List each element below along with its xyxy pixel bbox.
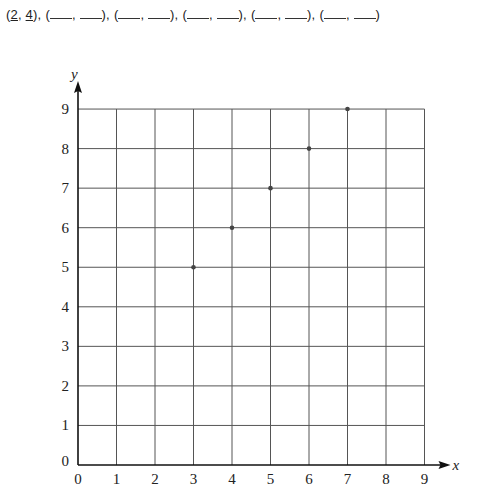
y-tick-label: 4 — [62, 299, 70, 315]
data-point — [307, 146, 312, 151]
x-tick-label: 4 — [228, 471, 236, 487]
y-tick-label: 6 — [62, 220, 70, 236]
x-tick-label: 5 — [267, 471, 275, 487]
y-tick-label: 7 — [62, 180, 70, 196]
y-axis-label: y — [69, 66, 78, 82]
x-tick-label: 3 — [190, 471, 198, 487]
y-tick-label: 3 — [62, 338, 70, 354]
data-point — [230, 225, 235, 230]
x-axis-label: x — [452, 457, 460, 473]
data-point — [268, 186, 273, 191]
y-tick-label: 0 — [62, 453, 70, 469]
data-point — [191, 265, 196, 270]
x-tick-label: 7 — [344, 471, 352, 487]
x-tick-label: 2 — [151, 471, 159, 487]
y-tick-label: 5 — [62, 259, 70, 275]
x-tick-label: 9 — [421, 471, 429, 487]
x-tick-label: 0 — [74, 471, 82, 487]
y-tick-label: 1 — [62, 417, 70, 433]
x-tick-label: 6 — [305, 471, 313, 487]
y-tick-label: 9 — [62, 101, 70, 117]
y-tick-label: 2 — [62, 378, 70, 394]
coordinate-grid: xy01234567890123456789 — [0, 0, 480, 504]
x-tick-label: 8 — [382, 471, 390, 487]
x-tick-label: 1 — [113, 471, 121, 487]
y-tick-label: 8 — [62, 141, 70, 157]
data-point — [345, 107, 350, 112]
